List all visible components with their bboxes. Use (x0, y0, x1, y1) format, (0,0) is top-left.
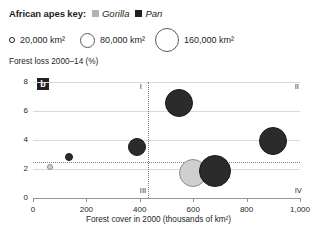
y-axis-label: Forest loss 2000–14 (%) (9, 57, 98, 66)
x-tick-mark (193, 198, 194, 202)
x-tick-mark (247, 198, 248, 202)
y-tick-label: 4 (12, 135, 28, 144)
size-key-item-small: 20,000 km² (9, 28, 65, 52)
quadrant-label-ii: II (295, 82, 299, 91)
y-tick-label: 6 (12, 106, 28, 115)
x-axis-label: Forest cover in 2000 (thousands of km²) (0, 215, 317, 224)
x-tick-label: 400 (123, 205, 157, 214)
x-tick-label: 0 (16, 205, 50, 214)
x-tick-mark (33, 198, 34, 202)
key-title: African apes key: (9, 8, 86, 19)
quadrant-divider-horizontal (33, 162, 300, 163)
x-tick-mark (140, 198, 141, 202)
size-key-label-large: 160,000 km² (184, 35, 234, 45)
gridline-y (33, 169, 300, 170)
quadrant-label-i: I (140, 82, 142, 91)
key-item-gorilla: Gorilla (92, 8, 129, 19)
gridline-y (33, 111, 300, 112)
data-bubble-pan (165, 89, 193, 117)
data-bubble-pan (128, 138, 146, 156)
y-tick-label: 8 (12, 77, 28, 86)
x-tick-label: 1,000 (283, 205, 317, 214)
quadrant-label-iii: III (140, 186, 146, 195)
size-key-item-large: 160,000 km² (155, 28, 234, 52)
x-axis-line (33, 198, 300, 199)
x-tick-mark (300, 198, 301, 202)
y-tick-label: 0 (12, 193, 28, 202)
gridline-y (33, 82, 300, 83)
square-swatch-pan-icon (135, 10, 142, 17)
y-tick-label: 2 (12, 164, 28, 173)
quadrant-label-iv: IV (295, 186, 302, 195)
chart-panel: African apes key: Gorilla Pan 20,000 km²… (0, 0, 317, 226)
bubble-size-icon-large (155, 28, 179, 52)
key-label-pan: Pan (145, 8, 162, 19)
bubble-size-icon-small (9, 37, 15, 43)
data-bubble-pan (199, 155, 231, 187)
quadrant-divider-vertical (148, 82, 149, 198)
x-tick-label: 600 (176, 205, 210, 214)
data-bubble-pan (65, 153, 73, 161)
plot-area: IIIIIIIV (33, 82, 300, 198)
square-swatch-gorilla-icon (92, 10, 99, 17)
size-key-item-medium: 80,000 km² (80, 28, 145, 52)
key-item-pan: Pan (135, 8, 162, 19)
size-key-label-medium: 80,000 km² (100, 35, 145, 45)
species-key: African apes key: Gorilla Pan (9, 8, 162, 19)
size-key: 20,000 km² 80,000 km² 160,000 km² (9, 28, 309, 52)
key-label-gorilla: Gorilla (102, 8, 129, 19)
x-tick-label: 200 (69, 205, 103, 214)
x-tick-label: 800 (230, 205, 264, 214)
x-tick-mark (86, 198, 87, 202)
data-bubble-pan (259, 127, 287, 155)
bubble-size-icon-medium (80, 33, 95, 48)
size-key-label-small: 20,000 km² (20, 35, 65, 45)
